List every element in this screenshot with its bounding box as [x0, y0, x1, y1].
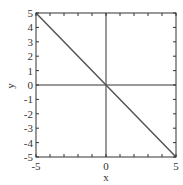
y-tick-label: 3	[28, 36, 34, 48]
y-tick-label: 0	[28, 79, 34, 91]
x-axis-ticks: -505	[31, 13, 179, 172]
y-axis-title: y	[4, 83, 16, 89]
x-axis-title: x	[103, 171, 109, 183]
y-tick-label: -2	[24, 108, 33, 120]
y-tick-label: 4	[28, 21, 34, 33]
y-tick-label: 5	[28, 7, 34, 19]
x-tick-label: 5	[173, 160, 179, 172]
y-tick-label: -3	[24, 122, 34, 134]
chart: -505 -5-4-3-2-1012345 x y	[0, 0, 183, 185]
y-tick-label: 2	[28, 50, 34, 62]
y-tick-label: -4	[24, 137, 34, 149]
y-tick-label: 1	[28, 65, 34, 77]
y-tick-label: -1	[24, 93, 33, 105]
y-tick-label: -5	[24, 151, 34, 163]
